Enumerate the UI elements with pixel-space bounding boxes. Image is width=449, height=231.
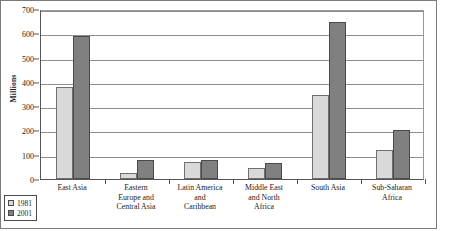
y-tick-label-100: 100	[0, 151, 34, 160]
bar-chart: Millions 0100200300400500600700 East Asi…	[0, 0, 449, 231]
legend-label-1981: 1981	[17, 199, 32, 208]
y-tick-label-400: 400	[0, 78, 34, 87]
bar-group	[41, 11, 425, 179]
legend-label-2001: 2001	[17, 209, 32, 218]
category-label-line: Caribbean	[168, 202, 232, 212]
category-label-line: East Asia	[40, 183, 104, 193]
y-tick-label-0: 0	[0, 176, 34, 185]
x-tick-mark	[425, 179, 426, 184]
y-axis-title: Millions	[9, 54, 18, 124]
category-label-line: and	[168, 193, 232, 203]
y-tick-label-600: 600	[0, 30, 34, 39]
category-label-line: and North	[232, 193, 296, 203]
y-tick-mark-200	[34, 131, 39, 132]
category-label-line: Africa	[232, 202, 296, 212]
y-tick-label-200: 200	[0, 127, 34, 136]
category-label-line: Eastern	[104, 183, 168, 193]
category-label: EasternEurope andCentral Asia	[104, 183, 168, 212]
legend-item-1981: 1981	[8, 198, 32, 208]
category-label-line: Sub-Saharan	[360, 183, 424, 193]
y-tick-mark-700	[34, 10, 39, 11]
category-label: Middle Eastand NorthAfrica	[232, 183, 296, 212]
chart-legend: 1981 2001	[4, 195, 37, 221]
y-tick-mark-100	[34, 155, 39, 156]
bars-layer	[41, 11, 423, 179]
bar-2001	[393, 130, 410, 179]
bar-1981	[376, 150, 393, 179]
legend-item-2001: 2001	[8, 208, 32, 218]
plot-area	[40, 10, 424, 180]
y-tick-mark-300	[34, 107, 39, 108]
category-label: Sub-SaharanAfrica	[360, 183, 424, 202]
category-label: South Asia	[296, 183, 360, 193]
category-label-line: Latin America	[168, 183, 232, 193]
y-tick-label-300: 300	[0, 103, 34, 112]
category-label-line: Europe and	[104, 193, 168, 203]
category-label-line: Middle East	[232, 183, 296, 193]
category-label-line: Africa	[360, 193, 424, 203]
legend-swatch-1981-icon	[8, 200, 14, 206]
y-tick-mark-500	[34, 58, 39, 59]
y-tick-mark-600	[34, 34, 39, 35]
y-tick-label-500: 500	[0, 54, 34, 63]
legend-swatch-2001-icon	[8, 210, 14, 216]
category-label: Latin AmericaandCaribbean	[168, 183, 232, 212]
y-tick-mark-0	[34, 180, 39, 181]
category-label-line: South Asia	[296, 183, 360, 193]
y-tick-mark-400	[34, 82, 39, 83]
category-label: East Asia	[40, 183, 104, 193]
category-label-line: Central Asia	[104, 202, 168, 212]
y-tick-label-700: 700	[0, 6, 34, 15]
